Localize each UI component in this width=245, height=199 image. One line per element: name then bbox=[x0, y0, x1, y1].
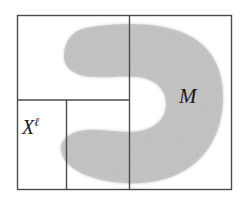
label-x-base: X bbox=[22, 116, 34, 138]
label-x-ell: Xℓ bbox=[22, 116, 39, 137]
label-x-superscript-ell: ℓ bbox=[34, 115, 39, 129]
figure-container: Xℓ M bbox=[0, 0, 245, 199]
label-m: M bbox=[179, 86, 197, 107]
diagram-canvas bbox=[0, 0, 245, 199]
